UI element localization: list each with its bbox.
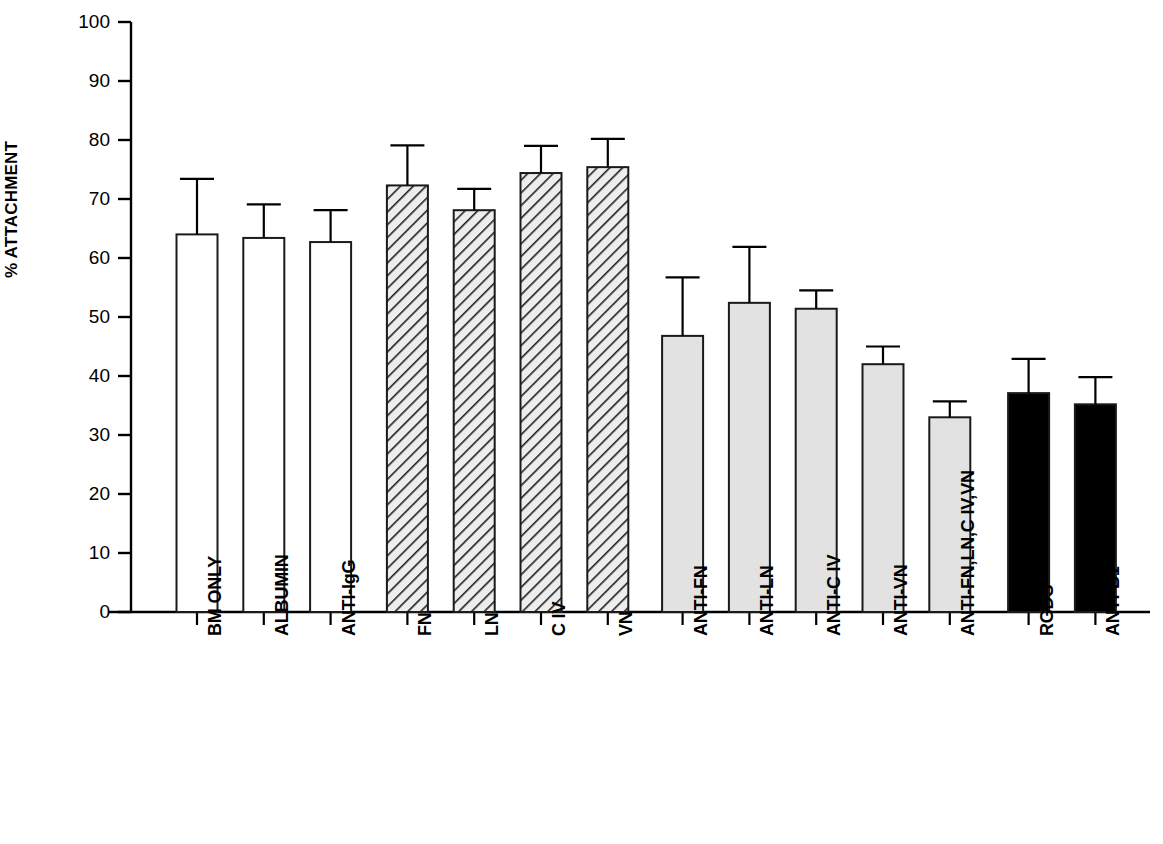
x-tick-label: ANTI-B1: [1103, 566, 1124, 636]
bar-rgds: [1008, 393, 1049, 612]
bar-chart: % ATTACHMENT 0102030405060708090100 BM O…: [0, 0, 1163, 844]
x-tick-label: VN: [616, 611, 637, 636]
y-tick-label: 80: [58, 130, 110, 149]
x-tick-label: C IV: [549, 602, 570, 636]
x-tick-label: ANTI-C IV: [824, 555, 845, 636]
y-tick-label: 30: [58, 425, 110, 444]
y-tick-label: 40: [58, 366, 110, 385]
y-tick-label: 100: [58, 12, 110, 31]
y-tick-label: 90: [58, 71, 110, 90]
x-tick-label: ALBUMIN: [272, 554, 293, 636]
bar-vn: [587, 167, 628, 612]
x-tick-label: BM ONLY: [205, 556, 226, 636]
y-tick-label: 50: [58, 307, 110, 326]
x-tick-label: RGDS: [1037, 585, 1058, 636]
bar-c-iv: [521, 173, 562, 612]
bar-fn: [387, 185, 428, 612]
plot-area: [0, 0, 1163, 844]
y-tick-label: 60: [58, 248, 110, 267]
bar-ln: [454, 210, 495, 612]
x-tick-label: ANTI-LN: [757, 565, 778, 636]
x-tick-label: ANTI-IgG: [339, 560, 360, 636]
y-tick-label: 10: [58, 543, 110, 562]
x-tick-label: ANTI-FN: [691, 565, 712, 636]
y-tick-label: 20: [58, 484, 110, 503]
x-tick-label: FN: [415, 612, 436, 636]
x-tick-label: ANTI-FN,LN,C IV,VN: [958, 470, 979, 636]
y-tick-label: 70: [58, 189, 110, 208]
x-tick-label: ANTI-VN: [891, 564, 912, 636]
x-tick-label: LN: [482, 612, 503, 636]
bar-anti-igg: [310, 242, 351, 612]
y-tick-label: 0: [58, 602, 110, 621]
